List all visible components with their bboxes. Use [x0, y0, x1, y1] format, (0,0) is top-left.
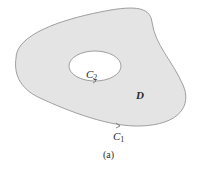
figure-caption: (a) [103, 150, 114, 160]
region-label: D [136, 90, 144, 101]
inner-curve-subscript: 2 [93, 73, 97, 82]
outer-curve-label: C1 [113, 131, 124, 144]
region-diagram: C2 D C1 (a) [0, 0, 197, 177]
inner-curve-label: C2 [86, 69, 97, 82]
region-svg [0, 0, 197, 177]
outer-curve-subscript: 1 [120, 135, 124, 144]
